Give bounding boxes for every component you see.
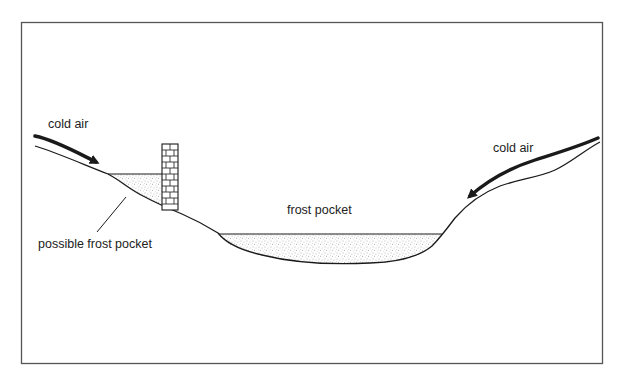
frost-pocket-diagram <box>0 0 637 383</box>
valley-frost-pocket-fill <box>219 234 442 264</box>
cold-air-arrow-right <box>470 138 598 196</box>
label-frost-pocket: frost pocket <box>287 203 352 217</box>
label-cold-air-left: cold air <box>48 117 88 131</box>
possible-frost-pocket-pointer <box>97 197 126 232</box>
diagram-frame <box>22 23 603 364</box>
label-cold-air-right: cold air <box>493 141 533 155</box>
label-possible-frost-pocket: possible frost pocket <box>38 237 152 251</box>
brick-wall <box>162 144 178 210</box>
